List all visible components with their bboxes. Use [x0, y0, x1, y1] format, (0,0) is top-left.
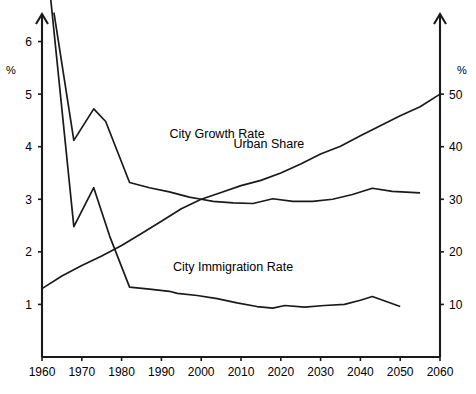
x-axis-tick-label: 1980: [108, 365, 135, 379]
x-axis-tick-label: 2060: [427, 365, 454, 379]
y-axis-right-tick-label: 10: [449, 298, 463, 312]
series-label-city-immigration-rate: City Immigration Rate: [173, 260, 293, 274]
series-line-city-growth-rate: [54, 13, 420, 204]
x-axis-tick-label: 1990: [148, 365, 175, 379]
y-axis-left-tick-label: 1: [25, 298, 32, 312]
series-label-urban-share: Urban Share: [233, 137, 304, 151]
y-axis-right-tick-label: 30: [449, 193, 463, 207]
y-axis-right-tick-label: 40: [449, 140, 463, 154]
y-axis-left-tick-label: 4: [25, 140, 32, 154]
x-axis-tick-label: 2010: [228, 365, 255, 379]
y-axis-left-unit-label: %: [6, 64, 16, 76]
x-axis-tick-label: 2050: [387, 365, 414, 379]
x-axis-tick-label: 2000: [188, 365, 215, 379]
x-axis-tick-label: 2040: [347, 365, 374, 379]
x-axis-tick-label: 1960: [29, 365, 56, 379]
y-axis-left-tick-label: 5: [25, 88, 32, 102]
y-axis-right-tick-label: 20: [449, 245, 463, 259]
chart-canvas: 123456%1020304050%1960197019801990200020…: [0, 0, 476, 394]
y-axis-left-tick-label: 2: [25, 245, 32, 259]
x-axis-tick-label: 1970: [68, 365, 95, 379]
line-chart: 123456%1020304050%1960197019801990200020…: [0, 0, 476, 394]
x-axis-tick-label: 2020: [267, 365, 294, 379]
x-axis-tick-label: 2030: [307, 365, 334, 379]
y-axis-right-tick-label: 50: [449, 88, 463, 102]
y-axis-left-tick-label: 3: [25, 193, 32, 207]
y-axis-right-unit-label: %: [457, 64, 467, 76]
y-axis-left-tick-label: 6: [25, 35, 32, 49]
